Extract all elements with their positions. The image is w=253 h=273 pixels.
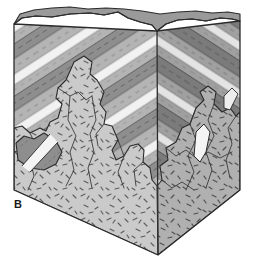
panel-label-b: B bbox=[14, 199, 22, 210]
figure-root: B bbox=[0, 0, 253, 273]
geologic-block-diagram bbox=[0, 0, 253, 273]
